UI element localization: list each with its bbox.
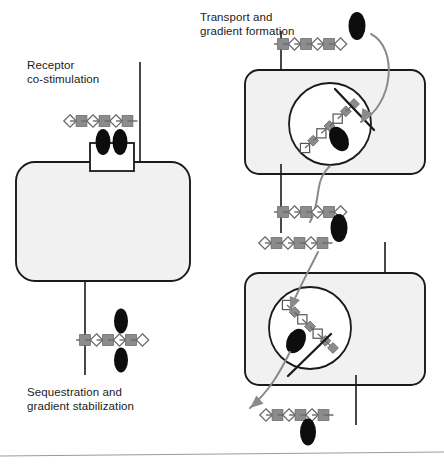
- lower-released-ligand-oval: [300, 419, 316, 446]
- label-transport-gradient-formation: Transport and gradient formation: [200, 10, 295, 38]
- label-receptor-co-stimulation: Receptor co-stimulation: [27, 58, 99, 86]
- left-cell-body: [16, 162, 190, 281]
- left-sequestered-ligand-oval-2: [114, 348, 128, 373]
- left-sequestered-ligand-oval-1: [114, 309, 128, 334]
- label-sequestration-gradient-stabilization: Sequestration and gradient stabilization: [27, 385, 134, 413]
- receptor-ligand-oval-2: [113, 129, 128, 155]
- upper-incoming-ligand-oval: [349, 12, 366, 40]
- figure-root: Receptor co-stimulation Sequestration an…: [0, 0, 444, 466]
- middle-transported-ligand-oval: [331, 214, 348, 242]
- receptor-ligand-oval-1: [96, 129, 111, 155]
